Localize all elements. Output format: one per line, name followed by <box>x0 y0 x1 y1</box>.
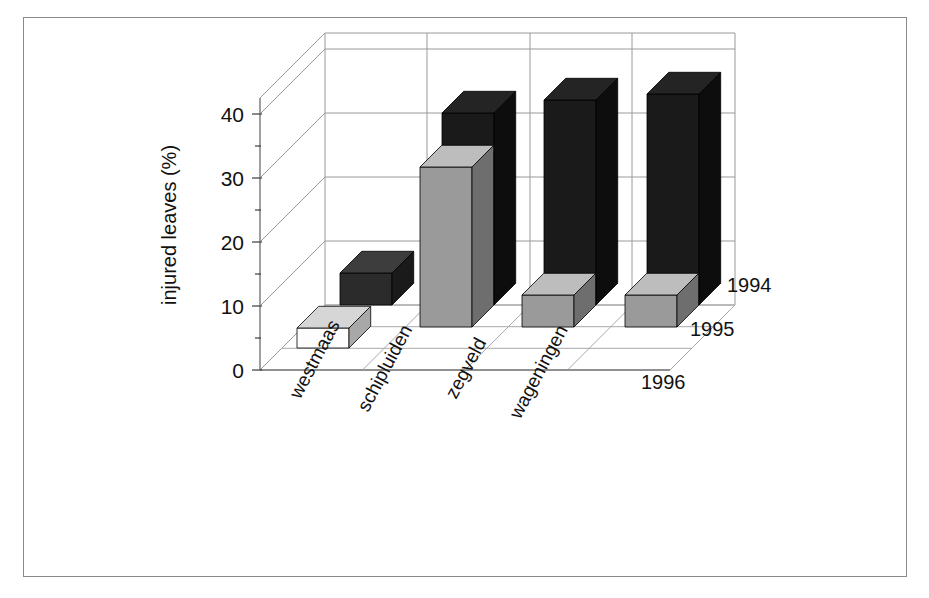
y-tick-20: 20 <box>221 231 244 254</box>
bar-wageningen-1995[interactable] <box>522 273 596 327</box>
year-label-1996: 1996 <box>641 371 686 393</box>
bar-extra-1994[interactable] <box>647 72 721 305</box>
category-label-wageningen: wageningen <box>505 322 572 423</box>
category-label-schipluiden: schipluiden <box>353 321 416 415</box>
chart-screenshot: 40 30 20 10 0 injured leaves (%) <box>0 0 929 598</box>
bar-chart-3d: 40 30 20 10 0 injured leaves (%) <box>0 0 929 598</box>
bar-schipluiden-1994[interactable] <box>340 251 414 305</box>
year-label-1994: 1994 <box>727 274 772 296</box>
y-tick-0: 0 <box>232 359 244 382</box>
bar-extra-1995[interactable] <box>625 273 699 327</box>
year-label-1995: 1995 <box>690 318 735 340</box>
y-tick-40: 40 <box>221 103 244 126</box>
y-tick-10: 10 <box>221 295 244 318</box>
category-label-zegveld: zegveld <box>441 334 490 402</box>
y-axis: 40 30 20 10 0 <box>221 103 262 382</box>
bar-wageningen-1994[interactable] <box>544 78 618 305</box>
bar-zegveld-1995[interactable] <box>420 145 494 327</box>
y-axis-title: injured leaves (%) <box>158 145 180 305</box>
y-tick-30: 30 <box>221 167 244 190</box>
